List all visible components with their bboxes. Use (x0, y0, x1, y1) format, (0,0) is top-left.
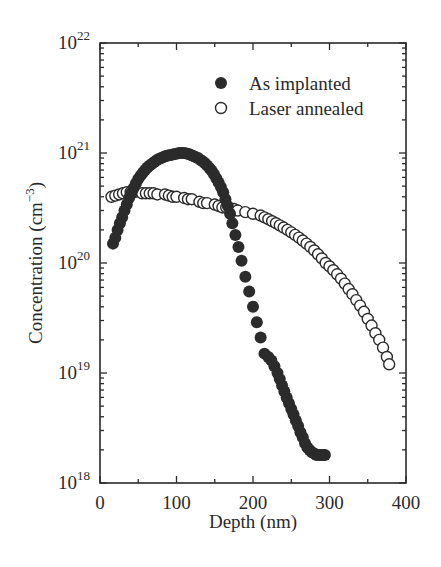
x-tick-label: 0 (95, 492, 105, 513)
y-tick-label: 1020 (58, 248, 90, 273)
legend-item-as-implanted: As implanted (215, 73, 351, 94)
y-tick-label: 1018 (58, 468, 90, 493)
data-point (229, 229, 241, 241)
data-point (319, 449, 331, 461)
data-point (243, 286, 255, 298)
legend: As implanted Laser annealed (215, 73, 364, 119)
x-tick-label: 100 (162, 492, 191, 513)
data-point (226, 217, 238, 229)
y-axis-title-base: Concentration (cm (25, 202, 47, 344)
legend-item-laser-annealed: Laser annealed (216, 98, 364, 119)
y-axis-title: Concentration (cm−3) (22, 182, 47, 344)
x-axis-title: Depth (nm) (209, 511, 297, 533)
data-point (232, 241, 244, 253)
y-tick-label: 1022 (58, 28, 90, 53)
data-point (236, 255, 248, 267)
filled-circle-marker-icon (215, 77, 227, 89)
y-axis-title-close: ) (25, 182, 47, 188)
data-point (239, 271, 251, 283)
y-tick-labels: 10181019102010211022 (58, 28, 90, 493)
y-tick-label: 1019 (58, 358, 90, 383)
y-axis-title-exponent: −3 (22, 188, 37, 202)
x-tick-label: 200 (239, 492, 268, 513)
chart: 0100200300400 10181019102010211022 Depth… (0, 0, 441, 567)
x-tick-label: 400 (392, 492, 421, 513)
y-tick-label: 1021 (58, 138, 90, 163)
legend-label: As implanted (249, 73, 351, 94)
legend-label: Laser annealed (249, 98, 364, 119)
data-point (255, 332, 267, 344)
data-point (384, 359, 395, 370)
x-tick-labels: 0100200300400 (95, 492, 420, 513)
data-point (251, 316, 263, 328)
data-point (247, 301, 259, 313)
x-tick-label: 300 (315, 492, 344, 513)
open-circle-marker-icon (216, 103, 227, 114)
